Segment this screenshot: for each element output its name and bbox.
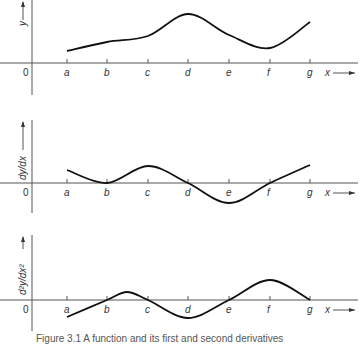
tick-label-e: e	[226, 304, 232, 315]
tick-label-e: e	[226, 67, 232, 78]
x-arrow-icon	[349, 71, 355, 75]
x-axis-label: x	[324, 304, 331, 315]
tick-label-c: c	[145, 187, 150, 198]
tick-label-f: f	[267, 304, 271, 315]
x-axis-label: x	[324, 67, 331, 78]
tick-label-d: d	[185, 67, 191, 78]
origin-label: 0	[23, 304, 29, 315]
tick-label-a: a	[64, 187, 70, 198]
y-arrow-icon	[21, 121, 25, 127]
tick-label-b: b	[104, 304, 110, 315]
y-axis-label: dy/dx	[17, 155, 28, 180]
tick-label-a: a	[64, 304, 70, 315]
y-axis-label: y	[17, 20, 28, 27]
figure-caption: Figure 3.1 A function and its first and …	[36, 333, 283, 344]
tick-label-g: g	[307, 187, 313, 198]
tick-label-b: b	[104, 67, 110, 78]
tick-label-g: g	[307, 67, 313, 78]
x-axis-label: x	[324, 187, 331, 198]
origin-label: 0	[23, 67, 29, 78]
tick-label-d: d	[185, 187, 191, 198]
tick-label-e: e	[226, 187, 232, 198]
x-arrow-icon	[349, 308, 355, 312]
tick-label-g: g	[307, 304, 313, 315]
tick-label-c: c	[145, 67, 150, 78]
tick-label-f: f	[267, 67, 271, 78]
y-axis-label: d²y/dx²	[17, 264, 28, 295]
y-arrow-icon	[21, 1, 25, 7]
tick-label-f: f	[267, 187, 271, 198]
tick-label-c: c	[145, 304, 150, 315]
tick-label-d: d	[185, 304, 191, 315]
tick-label-a: a	[64, 67, 70, 78]
tick-label-b: b	[104, 187, 110, 198]
x-arrow-icon	[349, 191, 355, 195]
curve-y	[67, 14, 310, 51]
y-arrow-icon	[21, 236, 25, 242]
origin-label: 0	[23, 187, 29, 198]
